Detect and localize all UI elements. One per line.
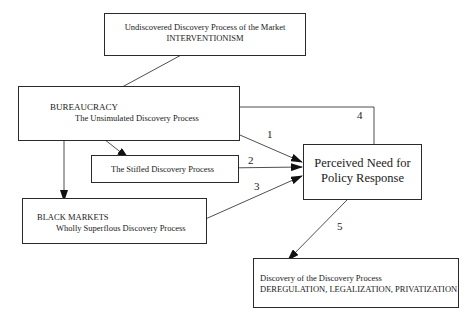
black-markets-title: BLACK MARKETS [37,212,109,222]
stifled-title: The Stifled Discovery Process [111,164,214,174]
bureaucracy-subtitle: The Unsimulated Discovery Process [75,113,199,123]
perceived-need-line2: Policy Response [304,171,421,186]
arrow-3-black-markets-to-perceived-need [192,176,302,225]
black-markets-node: BLACK MARKETS Wholly Superflous Discover… [22,198,207,244]
discovery-node: Discovery of the Discovery Process DEREG… [253,258,459,308]
perceived-need-node: Perceived Need for Policy Response [303,144,422,200]
interventionism-node: Undiscovered Discovery Process of the Ma… [104,13,306,56]
discovery-title: Discovery of the Discovery Process [260,273,382,283]
edge-label-5: 5 [337,220,343,232]
edge-label-1: 1 [267,128,273,140]
stifled-node: The Stifled Discovery Process [91,155,239,183]
interventionism-subtitle: Undiscovered Discovery Process of the Ma… [105,22,305,32]
interventionism-title: INTERVENTIONISM [105,33,305,43]
bureaucracy-title: BUREAUCRACY [50,102,118,112]
edge-label-2: 2 [248,154,254,166]
edge-label-3: 3 [254,180,260,192]
discovery-subtitle: DEREGULATION, LEGALIZATION, PRIVATIZATIO… [260,284,457,294]
bureaucracy-node: BUREAUCRACY The Unsimulated Discovery Pr… [18,86,240,141]
edge-label-4: 4 [357,109,363,121]
black-markets-subtitle: Wholly Superflous Discovery Process [56,223,186,233]
perceived-need-line1: Perceived Need for [304,156,421,171]
